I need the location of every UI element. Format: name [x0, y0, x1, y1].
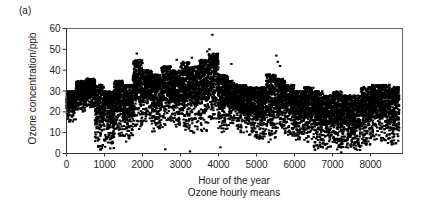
x-tick-label: 1000	[93, 159, 116, 170]
y-tick-label: 30	[49, 86, 61, 97]
x-axis-ticks: 010002000300040005000600070008000	[64, 154, 382, 170]
x-tick-label: 3000	[169, 159, 192, 170]
x-tick-label: 6000	[283, 159, 306, 170]
x-axis-label: Hour of the year	[66, 175, 402, 187]
x-tick-label: 0	[64, 159, 70, 170]
data-points	[65, 34, 400, 154]
y-axis-label: Ozone concentration/ppb	[27, 19, 38, 159]
y-tick-label: 50	[49, 44, 61, 55]
x-tick-label: 5000	[245, 159, 268, 170]
y-tick-label: 20	[49, 106, 61, 117]
chart-subtitle: Ozone hourly means	[66, 187, 402, 199]
y-tick-label: 0	[55, 148, 61, 159]
x-axis-label-block: Hour of the year Ozone hourly means	[66, 175, 402, 199]
x-tick-label: 2000	[131, 159, 154, 170]
x-tick-label: 8000	[359, 159, 382, 170]
y-tick-label: 60	[49, 23, 61, 34]
x-tick-label: 7000	[321, 159, 344, 170]
y-tick-label: 10	[49, 127, 61, 138]
x-tick-label: 4000	[207, 159, 230, 170]
y-tick-label: 40	[49, 65, 61, 76]
y-axis-ticks: 0102030405060	[49, 23, 67, 159]
